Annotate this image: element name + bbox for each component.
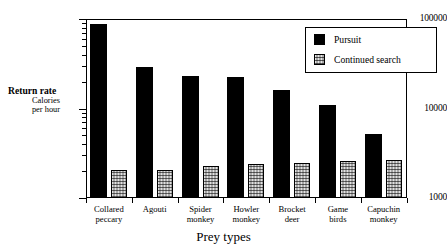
y-axis-title: Return rate Calories per hour (8, 85, 80, 115)
bar-pursuit (90, 24, 107, 198)
x-tick (361, 198, 362, 203)
bar-continued-search (157, 170, 173, 198)
bar-group (132, 19, 178, 198)
x-tick (132, 198, 133, 203)
bar-continued-search (294, 163, 310, 198)
legend-swatch-continued-search (314, 54, 325, 65)
bar-continued-search (340, 161, 356, 198)
y-axis-title-sub-line1: Calories (8, 96, 80, 105)
y-axis-title-main: Return rate (8, 85, 80, 96)
bar-continued-search (203, 166, 219, 198)
bar-continued-search (248, 164, 264, 198)
bar-group (86, 19, 132, 198)
bar-continued-search (111, 170, 127, 198)
legend-item-pursuit: Pursuit (314, 33, 361, 46)
bar-pursuit (227, 77, 244, 198)
bar-pursuit (365, 134, 382, 198)
bar-group (223, 19, 269, 198)
x-tick (407, 198, 408, 203)
x-tick (315, 198, 316, 203)
legend-label-pursuit: Pursuit (334, 34, 361, 45)
bar-continued-search (386, 160, 402, 198)
chart-legend: Pursuit Continued search (305, 27, 437, 73)
bar-group (178, 19, 224, 198)
x-tick (86, 198, 87, 203)
bar-pursuit (182, 76, 199, 198)
bar-chart: Return rate Calories per hour 1000001000… (0, 0, 447, 251)
legend-label-continued-search: Continued search (334, 54, 401, 65)
x-tick (223, 198, 224, 203)
x-axis-label: Capuchinmonkey (355, 205, 413, 224)
x-axis-title: Prey types (0, 229, 447, 245)
x-tick (269, 198, 270, 203)
x-tick (178, 198, 179, 203)
legend-item-continued-search: Continued search (314, 53, 401, 66)
bar-pursuit (273, 90, 290, 198)
legend-swatch-pursuit (314, 34, 325, 45)
bar-pursuit (136, 67, 153, 198)
bar-pursuit (319, 105, 336, 198)
y-axis-title-sub-line2: per hour (8, 105, 80, 114)
